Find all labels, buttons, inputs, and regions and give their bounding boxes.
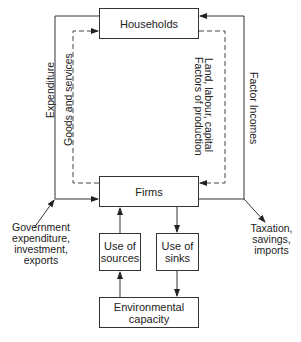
- use-of-sources-label-line2: sources: [101, 252, 140, 264]
- use-of-sinks-label-line1: Use of: [162, 240, 194, 252]
- expenditure-label: Expenditure: [45, 62, 56, 118]
- factor-incomes-label: Factor Incomes: [248, 72, 259, 144]
- leakages-label: Taxation, savings, imports: [244, 223, 299, 256]
- environmental-capacity-node: Environmental capacity: [99, 297, 199, 328]
- leakages-line3: imports: [244, 245, 299, 256]
- leakages-arrow: [244, 199, 265, 222]
- injections-label: Government expenditure, investment, expo…: [6, 222, 76, 266]
- households-node: Households: [99, 8, 199, 39]
- env-capacity-label-line2: capacity: [129, 313, 169, 325]
- use-of-sinks-label-line2: sinks: [165, 252, 190, 264]
- use-of-sinks-node: Use of sinks: [156, 233, 199, 271]
- households-label: Households: [120, 18, 178, 30]
- use-of-sources-node: Use of sources: [99, 233, 141, 271]
- firms-label: Firms: [135, 186, 163, 198]
- use-of-sources-label-line1: Use of: [104, 240, 136, 252]
- goods-services-flow-line: [73, 31, 99, 183]
- firms-node: Firms: [99, 176, 199, 207]
- env-capacity-label-line1: Environmental: [114, 301, 184, 313]
- goods-services-label: Goods and services: [63, 53, 74, 146]
- factors-of-production-label: Factors of production: [193, 57, 204, 156]
- injections-line4: exports: [6, 255, 76, 266]
- diagram-connectors: [0, 0, 301, 342]
